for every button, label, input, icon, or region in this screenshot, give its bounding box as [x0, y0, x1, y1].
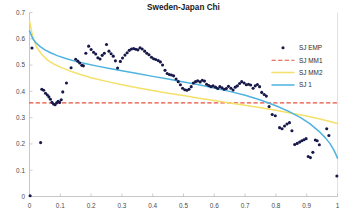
legend-item-sj-1[interactable]: SJ 1: [268, 79, 344, 91]
data-point: [187, 88, 190, 91]
x-tick-label: 0.9: [302, 202, 311, 209]
data-point: [172, 74, 175, 77]
axis-lines: [30, 13, 338, 197]
data-point: [316, 139, 319, 142]
data-point: [65, 81, 68, 84]
data-point: [274, 114, 277, 117]
data-point: [252, 87, 255, 90]
data-point: [84, 52, 87, 55]
legend-item-sj-mm2[interactable]: SJ MM2: [268, 67, 344, 79]
data-point: [311, 151, 314, 154]
data-point: [90, 48, 93, 51]
y-tick-label: 0.4: [16, 88, 25, 95]
legend-label: SJ MM2: [299, 69, 323, 76]
data-point: [177, 80, 180, 83]
data-point: [141, 47, 144, 50]
data-point: [98, 57, 101, 60]
x-tick-label: 0.4: [148, 202, 157, 209]
chart-figure: 00.10.20.30.40.50.60.700.10.20.30.40.50.…: [0, 0, 360, 224]
data-point: [258, 85, 261, 88]
x-tick-label: 0.2: [87, 202, 96, 209]
data-point: [161, 64, 164, 67]
data-point: [60, 98, 63, 101]
y-tick-label: 0.3: [16, 114, 25, 121]
data-point: [305, 137, 308, 140]
data-point: [159, 60, 162, 63]
data-point: [190, 85, 193, 88]
data-point: [163, 69, 166, 72]
axes: 00.10.20.30.40.50.60.700.10.20.30.40.50.…: [16, 9, 340, 209]
data-point: [121, 56, 124, 59]
chart-legend[interactable]: SJ EMPSJ MM1SJ MM2SJ 1: [268, 41, 344, 97]
data-point: [78, 61, 81, 64]
data-point: [58, 101, 61, 104]
data-point: [39, 141, 42, 144]
x-tick-label: 0.5: [179, 202, 188, 209]
x-tick-label: 0.1: [56, 202, 65, 209]
data-point: [281, 127, 284, 130]
legend-label: SJ MM1: [299, 57, 323, 64]
data-point: [175, 77, 178, 80]
x-tick-label: 1: [336, 202, 340, 209]
x-tick-label: 0.8: [271, 202, 280, 209]
legend-item-sj-emp[interactable]: SJ EMP: [268, 42, 344, 54]
data-point: [260, 91, 263, 94]
data-point: [290, 129, 293, 132]
data-point: [29, 194, 32, 197]
x-tick-label: 0: [28, 202, 32, 209]
data-point: [42, 89, 45, 92]
data-point: [335, 174, 338, 177]
data-point: [105, 43, 108, 46]
data-point: [123, 54, 126, 57]
data-point: [227, 85, 230, 88]
data-point: [107, 50, 110, 53]
data-point: [325, 127, 328, 130]
data-point: [119, 60, 122, 63]
y-tick-label: 0.2: [16, 140, 25, 147]
scatter-plot-canvas: 00.10.20.30.40.50.60.700.10.20.30.40.50.…: [0, 0, 360, 224]
chart-title: Sweden-Japan Chi: [147, 3, 220, 12]
legend-label: SJ EMP: [299, 44, 322, 51]
legend-item-sj-mm1[interactable]: SJ MM1: [268, 54, 344, 66]
data-point: [103, 52, 106, 55]
data-point: [49, 98, 52, 101]
legend-label: SJ 1: [299, 81, 312, 88]
data-point: [179, 83, 182, 86]
data-point: [112, 55, 115, 58]
data-point: [114, 59, 117, 62]
data-point: [30, 46, 33, 49]
x-tick-label: 0.6: [210, 202, 219, 209]
data-point: [283, 125, 286, 128]
data-point: [203, 80, 206, 83]
y-tick-label: 0.7: [16, 9, 25, 16]
data-point: [232, 88, 235, 91]
y-tick-label: 0: [21, 193, 25, 200]
y-tick-label: 0.1: [16, 167, 25, 174]
data-point: [87, 45, 90, 48]
data-point: [327, 134, 330, 137]
data-point: [265, 95, 268, 98]
x-tick-label: 0.7: [241, 202, 250, 209]
chart-title-text: Sweden-Japan Chi: [147, 3, 220, 12]
y-tick-label: 0.6: [16, 35, 25, 42]
y-tick-label: 0.5: [16, 61, 25, 68]
data-point: [94, 52, 97, 55]
data-point: [116, 66, 119, 69]
data-point: [268, 105, 271, 108]
data-point: [70, 66, 73, 69]
data-point: [82, 64, 85, 67]
data-point: [318, 143, 321, 146]
data-point: [110, 52, 113, 55]
data-point: [126, 51, 129, 54]
data-point: [147, 53, 150, 56]
data-point: [309, 156, 312, 159]
data-point: [271, 113, 274, 116]
data-point: [249, 84, 252, 87]
x-tick-label: 0.3: [117, 202, 126, 209]
data-point: [61, 90, 64, 93]
data-point: [288, 121, 291, 124]
legend-dot-marker: [281, 46, 284, 49]
data-point: [236, 84, 239, 87]
